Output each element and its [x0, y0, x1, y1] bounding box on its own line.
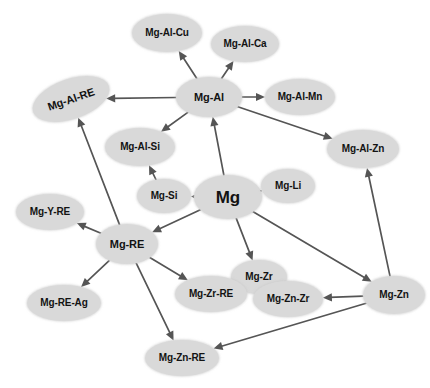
- node-mg-al-ca[interactable]: Mg-Al-Ca: [211, 26, 279, 62]
- arrowhead: [225, 61, 233, 71]
- edge-mg-zn-to-mg-al-zn: [365, 168, 390, 276]
- edge-mg-al-to-mg-al-re: [106, 94, 176, 102]
- node-mg-al-si[interactable]: Mg-Al-Si: [105, 128, 175, 166]
- edge-mg-re-to-mg-re-ag: [81, 260, 109, 287]
- node-mg-zn-re[interactable]: Mg-Zn-RE: [145, 340, 219, 376]
- edge-mg-re-to-mg-zn-re: [136, 263, 173, 340]
- node-label-mg-si: Mg-Si: [151, 191, 178, 201]
- node-mg-zn-zr[interactable]: Mg-Zn-Zr: [253, 281, 323, 317]
- edge-mg-re-to-mg-zr-re: [150, 258, 188, 281]
- node-label-mg-al-mn: Mg-Al-Mn: [278, 92, 323, 102]
- edge-mg-to-mg-zr: [236, 218, 253, 260]
- edge-mg-to-mg-al: [210, 117, 223, 175]
- node-label-mg-zn: Mg-Zn: [379, 290, 409, 300]
- node-mg-al-zn[interactable]: Mg-Al-Zn: [327, 130, 399, 168]
- edge-mg-al-to-mg-al-ca: [222, 61, 234, 79]
- node-label-mg-al-zn: Mg-Al-Zn: [342, 144, 385, 154]
- node-label-mg-zn-zr: Mg-Zn-Zr: [267, 294, 310, 304]
- arrowhead: [78, 118, 86, 128]
- arrowhead: [210, 117, 218, 127]
- arrowhead: [179, 51, 187, 61]
- node-mg-li[interactable]: Mg-Li: [261, 169, 315, 203]
- node-mg-zr-re[interactable]: Mg-Zr-RE: [175, 276, 247, 312]
- arrowhead: [246, 251, 254, 261]
- arrowhead: [365, 168, 373, 178]
- node-label-mg-li: Mg-Li: [275, 181, 301, 191]
- node-label-mg-zr-re: Mg-Zr-RE: [189, 289, 233, 299]
- node-label-mg: Mg: [216, 189, 240, 206]
- node-mg-zn[interactable]: Mg-Zn: [363, 276, 425, 314]
- node-label-mg-al-ca: Mg-Al-Ca: [223, 39, 266, 49]
- node-mg-y-re[interactable]: Mg-Y-RE: [16, 194, 84, 230]
- node-label-mg-zn-re: Mg-Zn-RE: [159, 353, 205, 363]
- node-mg[interactable]: Mg: [194, 175, 262, 219]
- node-mg-al-cu[interactable]: Mg-Al-Cu: [132, 14, 202, 52]
- edge-mg-al-to-mg-al-mn: [242, 93, 265, 101]
- edge-mg-re-to-mg-y-re: [77, 223, 101, 233]
- node-label-mg-y-re: Mg-Y-RE: [30, 207, 70, 217]
- edge-mg-to-mg-re: [152, 210, 200, 232]
- edge-mg-al-to-mg-al-cu: [179, 51, 197, 79]
- arrowhead: [323, 293, 332, 301]
- edge-mg-zn-to-mg-zn-zr: [323, 293, 363, 301]
- arrowhead: [214, 342, 224, 350]
- node-mg-re[interactable]: Mg-RE: [96, 224, 158, 264]
- diagram-canvas: MgMg-AlMg-Al-CuMg-Al-CaMg-Al-MnMg-Al-REM…: [0, 0, 430, 388]
- node-mg-re-ag[interactable]: Mg-RE-Ag: [27, 285, 101, 321]
- node-label-mg-zr: Mg-Zr: [245, 272, 272, 282]
- node-mg-al-mn[interactable]: Mg-Al-Mn: [265, 79, 335, 115]
- node-label-mg-re: Mg-RE: [110, 239, 144, 250]
- edge-mg-si-to-mg-al-si: [149, 165, 157, 179]
- node-label-mg-al-si: Mg-Al-Si: [120, 142, 160, 152]
- node-mg-si[interactable]: Mg-Si: [137, 179, 191, 213]
- edge-mg-al-to-mg-al-si: [161, 112, 188, 131]
- arrowhead: [161, 123, 171, 132]
- arrowhead: [256, 93, 265, 101]
- node-mg-al[interactable]: Mg-Al: [176, 77, 242, 117]
- node-label-mg-re-ag: Mg-RE-Ag: [40, 298, 88, 308]
- node-label-mg-al-re: Mg-Al-RE: [46, 86, 96, 112]
- node-label-mg-al: Mg-Al: [194, 92, 224, 103]
- node-label-mg-al-cu: Mg-Al-Cu: [145, 28, 189, 38]
